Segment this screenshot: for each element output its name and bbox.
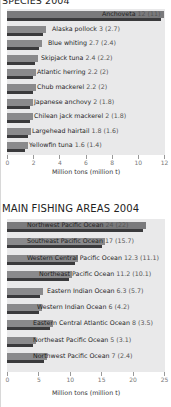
bar-label-name: Largehead hairtail (32, 127, 89, 134)
x-tick-label: 10 (66, 376, 74, 383)
x-tick-label: 25 (161, 376, 169, 383)
bar-shadow (7, 311, 39, 314)
bar-label-name: Atlantic herring (37, 68, 86, 75)
bar-label: Chub mackerel 2.2 (2) (37, 83, 107, 90)
bar-label: Anchoveta 12 (11) (102, 10, 161, 17)
bar-label-name: Chilean jack mackerel (34, 112, 103, 119)
bar-label-name: Southeast Pacific Ocean (27, 237, 103, 244)
bar-label-name: Northwest Pacific Ocean (33, 352, 110, 359)
page-left-rule (0, 0, 1, 407)
bar-label-name: Alaska pollock (52, 25, 97, 32)
x-tick-label: 5 (37, 376, 41, 383)
bar-label-value: 11.2 (10.1) (116, 270, 151, 277)
bar-shadow (7, 327, 50, 330)
bar (7, 128, 31, 139)
bar-label-value: 2.4 (2.2) (85, 54, 112, 61)
x-tick-label: 2 (32, 159, 36, 166)
bar-label-value: 24 (22) (106, 221, 129, 228)
bar-fill (7, 142, 28, 149)
x-tick-label: 0 (6, 159, 10, 166)
x-tick-label: 12 (161, 159, 169, 166)
bar-shadow (7, 18, 161, 21)
bar-label-name: Western Indian Ocean (37, 303, 106, 310)
bar-label: Yellowfin tuna 1.6 (1.4) (29, 141, 102, 148)
bar-label-value: 5 (3.1) (110, 336, 131, 343)
bar-label: Northeast Pacific Ocean 11.2 (10.1) (39, 270, 151, 277)
bar-label-value: 6 (4.2) (108, 303, 129, 310)
x-tick-label: 10 (135, 159, 143, 166)
bar-shadow (7, 229, 143, 232)
bar-label-value: 1.8 (1.6) (91, 127, 118, 134)
bar-fill (7, 40, 42, 47)
bar-shadow (7, 33, 43, 36)
bar (7, 55, 38, 66)
bar-fill (7, 337, 36, 344)
species-x-axis-label: Million tons (million t) (52, 168, 120, 175)
bar-label: Largehead hairtail 1.8 (1.6) (32, 127, 118, 134)
bar-label-name: Blue whiting (48, 39, 87, 46)
bar-fill (7, 26, 46, 33)
bar-fill (7, 55, 38, 62)
bar (7, 142, 28, 153)
areas-chart-title: MAIN FISHING AREAS 2004 (2, 203, 139, 214)
bar-label-name: Eastern Central Atlantic Ocean (33, 319, 130, 326)
bar-shadow (7, 76, 33, 79)
bar (7, 337, 36, 348)
bar-shadow (7, 245, 102, 248)
bar-label: Southeast Pacific Ocean 17 (15.7) (27, 237, 134, 244)
bar-shadow (7, 120, 30, 123)
bar (7, 99, 33, 110)
bar-label-value: 3 (2.7) (99, 25, 120, 32)
bar-shadow (7, 62, 35, 65)
bar-label-value: 12.3 (11.1) (124, 254, 159, 261)
bar-label: Atlantic herring 2.2 (2) (37, 68, 109, 75)
bar-fill (7, 99, 33, 106)
bar-shadow (7, 344, 33, 347)
bar-label-name: Skipjack tuna (41, 54, 83, 61)
areas-x-axis-label: Million tons (million t) (52, 389, 120, 396)
bar-label-name: Eastern Indian Ocean (47, 287, 115, 294)
bar-label-value: 6.3 (5.7) (117, 287, 144, 294)
bar-label-value: 12 (11) (138, 10, 161, 17)
bar-fill (7, 113, 33, 120)
bar-shadow (7, 106, 30, 109)
bar-label: Northwest Pacific Ocean 24 (22) (27, 221, 129, 228)
x-tick-label: 6 (84, 159, 88, 166)
bar-label-value: 2.7 (2.4) (89, 39, 116, 46)
bar-label: Eastern Indian Ocean 6.3 (5.7) (47, 287, 144, 294)
bar-shadow (7, 262, 75, 265)
x-tick-label: 20 (129, 376, 137, 383)
bar-label-name: Anchoveta (102, 10, 136, 17)
bar-label-value: 2.2 (2) (88, 68, 109, 75)
bar (7, 84, 36, 95)
bar-label-value: 8 (3.5) (132, 319, 153, 326)
bar-label: Eastern Central Atlantic Ocean 8 (3.5) (33, 319, 153, 326)
bar-fill (7, 69, 36, 76)
bar-label-value: 2.2 (2) (86, 83, 107, 90)
bar-shadow (7, 278, 69, 281)
bar-label: Skipjack tuna 2.4 (2.2) (41, 54, 112, 61)
bar-label-name: Northeast Pacific Ocean (33, 336, 108, 343)
bar-label: Alaska pollock 3 (2.7) (52, 25, 120, 32)
bar (7, 69, 36, 80)
bar-shadow (7, 360, 44, 363)
bar (7, 113, 33, 124)
species-chart-title: SPECIES 2004 (2, 0, 70, 6)
x-tick-label: 4 (58, 159, 62, 166)
bar-label-name: Northeast Pacific Ocean (39, 270, 114, 277)
bar-shadow (7, 149, 25, 152)
bar (7, 288, 43, 299)
bar-label: Blue whiting 2.7 (2.4) (48, 39, 116, 46)
bar (7, 26, 46, 37)
bar-label: Northeast Pacific Ocean 5 (3.1) (33, 336, 131, 343)
bar-label-value: 2 (1.8) (105, 112, 126, 119)
bar-label: Western Central Pacific Ocean 12.3 (11.1… (27, 254, 159, 261)
bar-fill (7, 288, 43, 295)
bar-label-name: Northwest Pacific Ocean (27, 221, 104, 228)
x-tick-label: 8 (110, 159, 114, 166)
bar-label-name: Chub mackerel (37, 83, 84, 90)
bar-shadow (7, 91, 33, 94)
bar-label-value: 2 (1.8) (93, 98, 114, 105)
x-tick-label: 0 (6, 376, 10, 383)
bar-shadow (7, 295, 40, 298)
